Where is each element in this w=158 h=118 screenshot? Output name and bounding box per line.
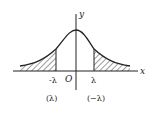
right-tail-shading [94, 49, 130, 71]
left-caption: (λ) [46, 94, 57, 103]
origin-label: O [65, 74, 73, 84]
neg-lambda-label: -λ [49, 76, 57, 85]
lambda-label: λ [91, 76, 96, 85]
bell-curve [20, 30, 130, 66]
x-axis-label: x [140, 66, 145, 76]
y-axis-label: y [78, 9, 85, 19]
left-tail-shading [20, 49, 56, 71]
right-caption: (−λ) [87, 94, 105, 103]
normal-curve-diagram: y x O -λ λ (λ) (−λ) [0, 0, 158, 118]
